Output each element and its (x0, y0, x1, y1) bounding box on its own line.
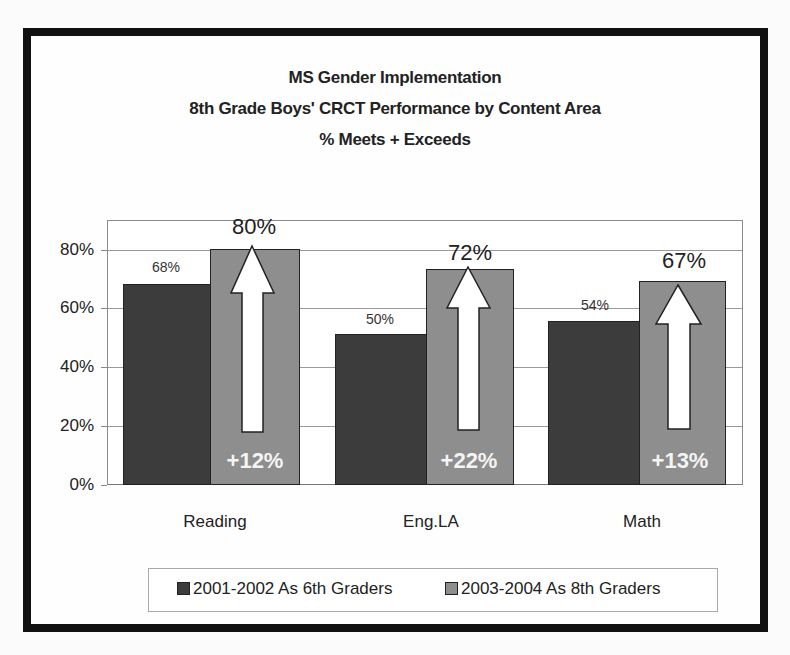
y-tick-40: 40% (44, 357, 94, 377)
value-label-engla-2001: 50% (350, 311, 410, 327)
x-label-engla: Eng.LA (361, 512, 501, 532)
value-label-reading-2001: 68% (136, 259, 196, 275)
y-tick-0: 0% (44, 475, 94, 495)
y-tick-80: 80% (44, 240, 94, 260)
x-label-math: Math (572, 512, 712, 532)
bar-math-2001 (548, 321, 640, 485)
y-tick-20: 20% (44, 416, 94, 436)
chart-subtitle: 8th Grade Boys' CRCT Performance by Cont… (0, 99, 790, 119)
bar-engla-2001 (335, 334, 427, 485)
delta-label-reading: +12% (210, 448, 300, 474)
legend-label-2003: 2003-2004 As 8th Graders (461, 579, 660, 598)
value-label-math-2001: 54% (565, 297, 625, 313)
value-label-engla-2003: 72% (435, 240, 505, 266)
legend-item-2003: 2003-2004 As 8th Graders (445, 579, 660, 599)
y-tick-60: 60% (44, 298, 94, 318)
legend-label-2001: 2001-2002 As 6th Graders (193, 579, 392, 598)
up-arrow-icon (446, 266, 492, 436)
legend: 2001-2002 As 6th Graders 2003-2004 As 8t… (148, 568, 718, 612)
legend-item-2001: 2001-2002 As 6th Graders (177, 579, 392, 599)
legend-swatch-light (445, 582, 458, 595)
bar-reading-2001 (123, 284, 211, 485)
delta-label-math: +13% (635, 448, 725, 474)
chart-title: MS Gender Implementation (0, 68, 790, 88)
legend-swatch-dark (177, 582, 190, 595)
value-label-reading-2003: 80% (219, 214, 289, 240)
value-label-math-2003: 67% (649, 248, 719, 274)
up-arrow-icon (230, 245, 276, 435)
up-arrow-icon (655, 284, 703, 434)
gridline-80 (108, 250, 742, 251)
chart-subtitle-metric: % Meets + Exceeds (0, 130, 790, 150)
y-tick-mark (101, 485, 107, 486)
delta-label-engla: +22% (424, 448, 514, 474)
x-label-reading: Reading (145, 512, 285, 532)
